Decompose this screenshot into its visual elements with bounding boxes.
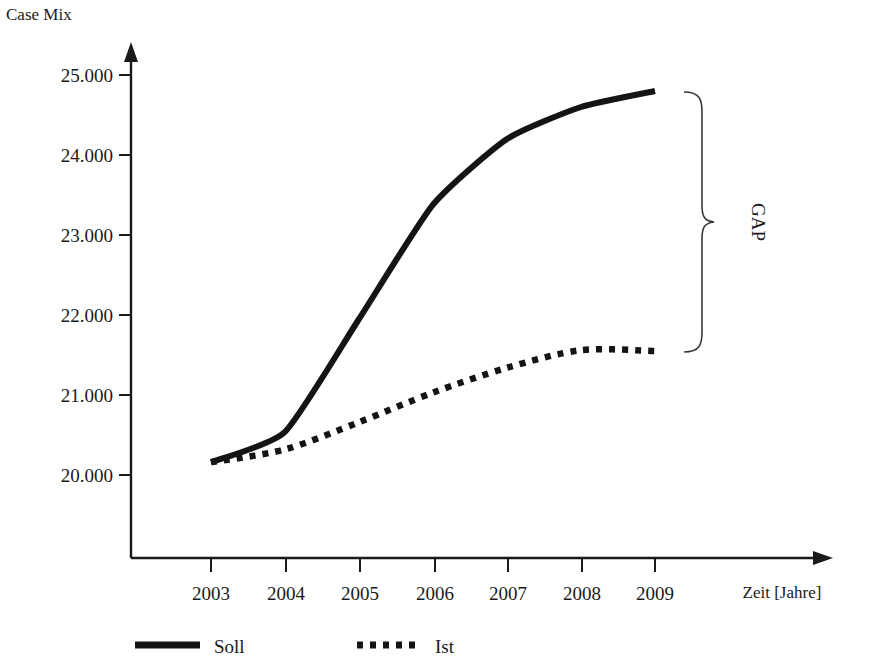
case-mix-line-chart: Case Mix 25.000 24.000 23.000 22.000 21.… bbox=[0, 0, 882, 661]
y-axis-ticks: 25.000 24.000 23.000 22.000 21.000 20.00… bbox=[61, 65, 131, 486]
x-tick-label-2003: 2003 bbox=[192, 583, 230, 604]
y-tick-label-24000: 24.000 bbox=[61, 145, 113, 166]
y-tick-label-25000: 25.000 bbox=[61, 65, 113, 86]
gap-annotation: GAP bbox=[684, 92, 769, 352]
y-axis-arrow-icon bbox=[124, 42, 138, 62]
x-tick-label-2009: 2009 bbox=[636, 583, 674, 604]
y-tick-label-23000: 23.000 bbox=[61, 225, 113, 246]
legend-label-soll: Soll bbox=[214, 636, 245, 657]
y-axis-title: Case Mix bbox=[6, 5, 72, 24]
series-line-soll bbox=[211, 91, 655, 462]
x-axis-arrow-icon bbox=[813, 551, 833, 565]
legend-label-ist: Ist bbox=[435, 636, 455, 657]
gap-brace-icon bbox=[684, 92, 714, 352]
x-tick-label-2008: 2008 bbox=[563, 583, 601, 604]
chart-legend: Soll Ist bbox=[135, 636, 455, 657]
y-axis bbox=[124, 42, 138, 558]
x-tick-label-2006: 2006 bbox=[416, 583, 454, 604]
x-tick-label-2005: 2005 bbox=[341, 583, 379, 604]
x-axis-ticks: 2003 2004 2005 2006 2007 2008 2009 bbox=[192, 558, 674, 604]
gap-label: GAP bbox=[748, 203, 769, 241]
y-tick-label-20000: 20.000 bbox=[61, 465, 113, 486]
x-axis-title: Zeit [Jahre] bbox=[743, 583, 822, 602]
y-tick-label-21000: 21.000 bbox=[61, 385, 113, 406]
x-tick-label-2004: 2004 bbox=[267, 583, 306, 604]
x-axis bbox=[131, 551, 833, 565]
y-tick-label-22000: 22.000 bbox=[61, 305, 113, 326]
series-line-ist bbox=[211, 349, 655, 462]
x-tick-label-2007: 2007 bbox=[489, 583, 527, 604]
chart-page: Case Mix 25.000 24.000 23.000 22.000 21.… bbox=[0, 0, 882, 661]
